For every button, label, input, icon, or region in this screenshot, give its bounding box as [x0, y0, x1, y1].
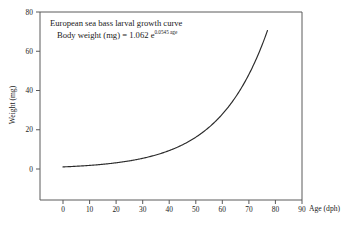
x-tick-label-60: 60: [219, 205, 227, 214]
growth-curve-chart: 80 60 40 20 0 Weight (mg) 0 10 20 30: [0, 0, 350, 230]
x-tick-label-0: 0: [61, 205, 65, 214]
y-axis-ticks: [36, 12, 40, 169]
x-tick-label-90: 90: [298, 205, 306, 214]
y-tick-label-60: 60: [26, 47, 34, 56]
x-tick-label-50: 50: [192, 205, 200, 214]
y-tick-label-20: 20: [26, 125, 34, 134]
growth-curve-line: [63, 31, 267, 167]
y-tick-label-0: 0: [29, 165, 33, 174]
x-tick-label-20: 20: [112, 205, 120, 214]
annotation-block: European sea bass larval growth curve Bo…: [50, 18, 183, 40]
x-tick-label-30: 30: [139, 205, 147, 214]
chart-figure: 80 60 40 20 0 Weight (mg) 0 10 20 30: [0, 0, 350, 230]
x-tick-label-40: 40: [166, 205, 174, 214]
x-axis-title: Age (dph): [309, 204, 340, 213]
plot-frame: [40, 12, 302, 200]
annotation-equation-exponent: 0.0545 age: [154, 29, 177, 35]
x-axis-tick-labels: 0 10 20 30 40 50 60 70 80 90: [61, 205, 306, 214]
x-tick-label-80: 80: [272, 205, 280, 214]
annotation-equation-base: Body weight (mg) = 1.062 e: [57, 30, 155, 40]
y-axis-tick-labels: 80 60 40 20 0: [26, 8, 34, 174]
y-tick-label-40: 40: [26, 86, 34, 95]
annotation-line-2: Body weight (mg) = 1.062 e0.0545 age: [57, 29, 178, 40]
y-tick-label-80: 80: [26, 8, 34, 17]
y-axis-title: Weight (mg): [8, 85, 17, 124]
annotation-line-1: European sea bass larval growth curve: [50, 18, 183, 28]
x-tick-label-70: 70: [245, 205, 253, 214]
x-axis-ticks: [63, 200, 302, 204]
x-tick-label-10: 10: [86, 205, 94, 214]
